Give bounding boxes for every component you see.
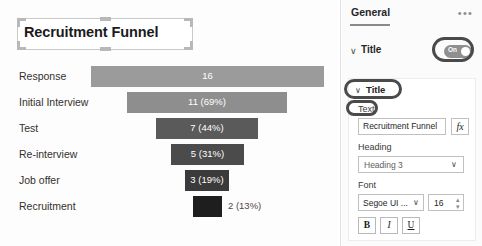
funnel-row: Job offer3 (19%) [0, 170, 338, 191]
panel-section-title-label: Title [361, 44, 381, 55]
funnel-data-label: 16 [91, 70, 324, 81]
italic-button[interactable]: I [380, 217, 398, 234]
heading-select-value: Heading 3 [364, 160, 403, 170]
format-panel: General ••• ∨ Title On ∨ Title Text Recr… [340, 0, 482, 246]
funnel-row: Initial Interview11 (69%) [0, 92, 338, 113]
heading-field-label: Heading [358, 142, 392, 152]
font-size-stepper[interactable]: 16 ▴ ▾ [428, 194, 464, 211]
chevron-down-icon[interactable]: ∨ [451, 160, 457, 169]
fx-button[interactable]: fx [451, 118, 469, 135]
funnel-category-label: Job offer [19, 174, 60, 186]
bold-button[interactable]: B [358, 217, 376, 234]
font-family-select[interactable]: Segoe UI ... ∨ [358, 194, 424, 211]
tab-general[interactable]: General [351, 6, 390, 22]
selection-handle-br-v[interactable] [190, 41, 193, 50]
chevron-down-icon[interactable]: ∨ [355, 86, 361, 95]
title-settings-card: ∨ Title Text Recruitment Funnel fx Headi… [348, 78, 476, 241]
chart-canvas[interactable]: Recruitment Funnel Response16Initial Int… [0, 0, 338, 246]
funnel-category-label: Recruitment [19, 200, 76, 212]
selection-handle-bl-v[interactable] [17, 41, 20, 50]
title-text-input[interactable]: Recruitment Funnel [358, 118, 446, 135]
tab-active-underline [350, 24, 390, 26]
funnel-row: Recruitment2 (13%) [0, 196, 338, 217]
title-toggle-state-label: On [448, 46, 457, 53]
title-toggle-switch[interactable]: On [444, 45, 472, 58]
funnel-row: Re-interview5 (31%) [0, 144, 338, 165]
stepper-down-icon[interactable]: ▾ [456, 203, 460, 210]
funnel-row: Response16 [0, 66, 338, 87]
chevron-down-icon[interactable]: ∨ [350, 46, 357, 56]
funnel-data-label: 11 (69%) [127, 96, 287, 107]
funnel-data-label: 5 (31%) [171, 148, 244, 159]
panel-section-title[interactable]: ∨ Title On [341, 40, 482, 66]
stepper-arrows-icon[interactable]: ▴ ▾ [456, 196, 460, 210]
funnel-data-label: 3 (19%) [185, 174, 229, 185]
funnel-category-label: Re-interview [19, 148, 77, 160]
funnel-data-label: 2 (13%) [228, 200, 261, 211]
stepper-up-icon[interactable]: ▴ [456, 196, 460, 203]
selection-handle-tl-v[interactable] [17, 18, 20, 27]
selection-handle-top-mid[interactable] [100, 17, 111, 21]
underline-button[interactable]: U [402, 217, 420, 234]
funnel-category-label: Response [19, 70, 66, 82]
page-title[interactable]: Recruitment Funnel [24, 24, 158, 40]
title-toggle-knob[interactable] [461, 47, 470, 56]
font-family-value: Segoe UI ... [363, 198, 408, 208]
title-selection-box[interactable]: Recruitment Funnel [17, 18, 193, 50]
funnel-row: Test7 (44%) [0, 118, 338, 139]
text-field-row: Recruitment Funnel fx [358, 118, 470, 135]
app-root: Recruitment Funnel Response16Initial Int… [0, 0, 482, 246]
funnel-data-label: 7 (44%) [156, 122, 258, 133]
font-size-value[interactable]: 16 [434, 198, 443, 208]
chevron-down-icon[interactable]: ∨ [413, 198, 419, 207]
text-field-label: Text [358, 104, 375, 114]
funnel-bar[interactable] [193, 196, 222, 217]
funnel-category-label: Test [19, 122, 38, 134]
card-header-label: Title [366, 84, 385, 95]
more-options-icon[interactable]: ••• [458, 8, 473, 18]
selection-handle-tr-v[interactable] [190, 18, 193, 27]
panel-tab-row: General ••• [341, 4, 482, 30]
selection-handle-bottom-mid[interactable] [100, 47, 111, 51]
heading-select[interactable]: Heading 3 ∨ [358, 156, 464, 173]
funnel-category-label: Initial Interview [19, 96, 88, 108]
font-field-label: Font [358, 180, 376, 190]
